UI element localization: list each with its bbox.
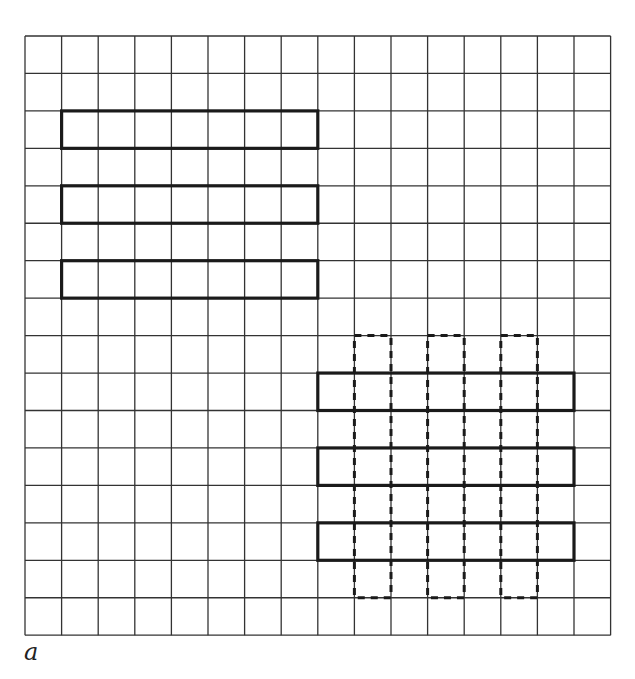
bold-rectangle: [62, 111, 318, 148]
grid-diagram: [0, 0, 635, 679]
bold-rectangle: [318, 523, 574, 560]
dashed-rectangles: [354, 336, 537, 598]
dashed-rectangle: [428, 336, 465, 598]
bold-rectangle: [318, 448, 574, 485]
bold-rectangle: [62, 186, 318, 223]
bold-rectangle: [318, 373, 574, 410]
figure-caption: a: [24, 638, 38, 666]
bold-rectangle: [62, 261, 318, 298]
dashed-rectangle: [354, 336, 391, 598]
dashed-rectangle: [501, 336, 538, 598]
